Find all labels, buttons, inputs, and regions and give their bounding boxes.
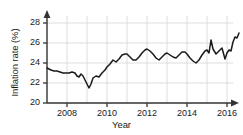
y-axis-title: Inflation rate (%) bbox=[9, 18, 20, 108]
y-tick-label: 28 bbox=[16, 17, 40, 27]
y-axis-arrow-icon bbox=[44, 10, 51, 18]
axis-lines bbox=[44, 10, 239, 106]
axis-ticks bbox=[43, 23, 227, 107]
y-tick-label: 20 bbox=[16, 97, 40, 107]
y-tick-label: 24 bbox=[16, 57, 40, 67]
gridlines bbox=[47, 16, 233, 103]
x-tick-label: 2008 bbox=[49, 108, 85, 118]
x-tick-label: 2010 bbox=[89, 108, 125, 118]
y-tick-label: 22 bbox=[16, 77, 40, 87]
data-series-line bbox=[47, 33, 239, 88]
x-tick-label: 2012 bbox=[129, 108, 165, 118]
x-axis-title: Year bbox=[0, 119, 243, 130]
x-tick-label: 2016 bbox=[209, 108, 243, 118]
inflation-rate-line-chart: 2022242628 20082010201220142016 Inflatio… bbox=[0, 0, 243, 135]
x-tick-label: 2014 bbox=[169, 108, 205, 118]
y-tick-label: 26 bbox=[16, 37, 40, 47]
x-axis-arrow-icon bbox=[231, 100, 239, 107]
